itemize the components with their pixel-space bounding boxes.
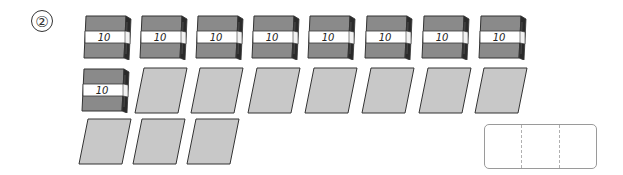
single-sheet — [418, 67, 472, 114]
ten-bundle: 10 — [306, 14, 358, 60]
bundle-of-ten-icon: 10 — [363, 14, 415, 60]
single-sheet-icon — [132, 118, 186, 165]
bundle-label: 10 — [379, 32, 392, 43]
single-sheet — [304, 67, 358, 114]
ten-bundle: 10 — [80, 67, 132, 113]
bundle-label: 10 — [210, 32, 223, 43]
single-sheet-icon — [418, 67, 472, 114]
ten-bundle: 10 — [477, 14, 529, 60]
answer-cell-tens[interactable] — [521, 125, 558, 168]
single-sheet-icon — [186, 118, 240, 165]
ten-bundle: 10 — [194, 14, 246, 60]
bundle-label: 10 — [266, 32, 279, 43]
problem-number: ② — [31, 10, 53, 32]
answer-box[interactable] — [484, 124, 597, 169]
bundle-label: 10 — [154, 32, 167, 43]
single-sheet-icon — [190, 67, 244, 114]
single-sheet-icon — [247, 67, 301, 114]
bundle-label: 10 — [436, 32, 449, 43]
single-sheet — [474, 67, 528, 114]
answer-cell-hundreds[interactable] — [485, 125, 521, 168]
ten-bundle: 10 — [82, 14, 134, 60]
single-sheet-icon — [474, 67, 528, 114]
single-sheet — [190, 67, 244, 114]
ten-bundle: 10 — [250, 14, 302, 60]
bundle-of-ten-icon: 10 — [306, 14, 358, 60]
bundle-of-ten-icon: 10 — [420, 14, 472, 60]
single-sheet-icon — [134, 67, 188, 114]
bundle-label: 10 — [322, 32, 335, 43]
bundle-of-ten-icon: 10 — [477, 14, 529, 60]
single-sheet — [361, 67, 415, 114]
single-sheet-icon — [361, 67, 415, 114]
single-sheet — [247, 67, 301, 114]
ten-bundle: 10 — [138, 14, 190, 60]
bundle-label: 10 — [98, 32, 111, 43]
bundle-of-ten-icon: 10 — [138, 14, 190, 60]
single-sheet-icon — [304, 67, 358, 114]
single-sheet-icon — [78, 118, 132, 165]
bundle-of-ten-icon: 10 — [80, 67, 132, 113]
bundle-label: 10 — [493, 32, 506, 43]
bundle-of-ten-icon: 10 — [250, 14, 302, 60]
ten-bundle: 10 — [420, 14, 472, 60]
single-sheet — [132, 118, 186, 165]
single-sheet — [186, 118, 240, 165]
ten-bundle: 10 — [363, 14, 415, 60]
bundle-of-ten-icon: 10 — [194, 14, 246, 60]
bundle-label: 10 — [96, 85, 109, 96]
single-sheet — [78, 118, 132, 165]
bundle-of-ten-icon: 10 — [82, 14, 134, 60]
single-sheet — [134, 67, 188, 114]
answer-cell-ones[interactable] — [559, 125, 596, 168]
